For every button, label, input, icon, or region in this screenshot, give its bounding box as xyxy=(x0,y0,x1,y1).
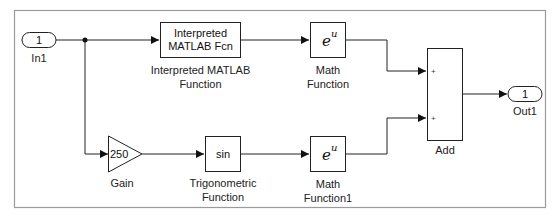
math-fn1-label-2: Function1 xyxy=(304,192,352,204)
math-fn-label-1: Math xyxy=(316,64,340,76)
interp-fcn-label-2: Function xyxy=(179,78,221,90)
math-fn1-base: e xyxy=(322,146,331,164)
simulink-canvas: 1 In1 Interpreted MATLAB Fcn Interpreted… xyxy=(0,0,558,224)
trig-text: sin xyxy=(216,148,230,160)
in1-port-number: 1 xyxy=(36,34,42,46)
block-math-function1[interactable]: e u Math Function1 xyxy=(304,137,352,205)
block-math-function[interactable]: e u Math Function xyxy=(307,23,349,91)
block-add[interactable]: + + Add xyxy=(428,49,463,157)
block-gain[interactable]: 250 Gain xyxy=(109,136,143,189)
gain-label: Gain xyxy=(110,177,133,189)
line-math1-to-add[interactable] xyxy=(346,118,426,154)
line-branch-to-gain[interactable] xyxy=(85,40,108,154)
trig-label-2: Function xyxy=(202,191,244,203)
add-box xyxy=(428,49,463,141)
trig-label-1: Trigonometric xyxy=(190,177,257,189)
math-fn1-label-1: Math xyxy=(316,178,340,190)
math-fn1-exponent: u xyxy=(331,142,337,153)
block-out1[interactable]: 1 Out1 xyxy=(508,87,542,118)
out1-port-number: 1 xyxy=(522,88,528,100)
add-label: Add xyxy=(435,144,455,156)
interp-fcn-text-1: Interpreted xyxy=(174,27,227,39)
interp-fcn-text-2: MATLAB Fcn xyxy=(168,40,233,52)
gain-value: 250 xyxy=(110,148,128,160)
math-fn-base: e xyxy=(322,32,331,50)
block-interpreted-matlab-fcn[interactable]: Interpreted MATLAB Fcn Interpreted MATLA… xyxy=(151,23,250,91)
add-sign-2: + xyxy=(431,114,436,123)
block-in1[interactable]: 1 In1 xyxy=(22,33,56,65)
math-fn-label-2: Function xyxy=(307,78,349,90)
out1-label: Out1 xyxy=(513,105,537,117)
interp-fcn-label-1: Interpreted MATLAB xyxy=(151,64,250,76)
add-sign-1: + xyxy=(431,67,436,76)
in1-label: In1 xyxy=(31,52,46,64)
line-math-to-add[interactable] xyxy=(346,40,426,71)
branch-junction-dot xyxy=(83,38,88,43)
math-fn-exponent: u xyxy=(331,28,337,39)
block-trigonometric-function[interactable]: sin Trigonometric Function xyxy=(190,137,257,204)
